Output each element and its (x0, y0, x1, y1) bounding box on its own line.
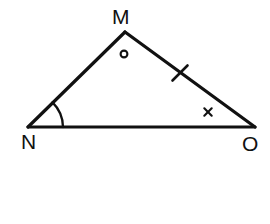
vertex-label-O: O (242, 133, 259, 154)
side-NM (28, 32, 125, 127)
triangle-diagram (0, 0, 270, 224)
vertex-label-N: N (21, 131, 36, 152)
angle-x-marker-icon (204, 108, 211, 115)
angle-arc-N-icon (53, 102, 64, 127)
vertex-label-M: M (112, 6, 130, 27)
side-MO (125, 32, 255, 127)
geometry-figure: M N O (0, 0, 270, 224)
angle-circle-marker-icon (121, 51, 128, 58)
